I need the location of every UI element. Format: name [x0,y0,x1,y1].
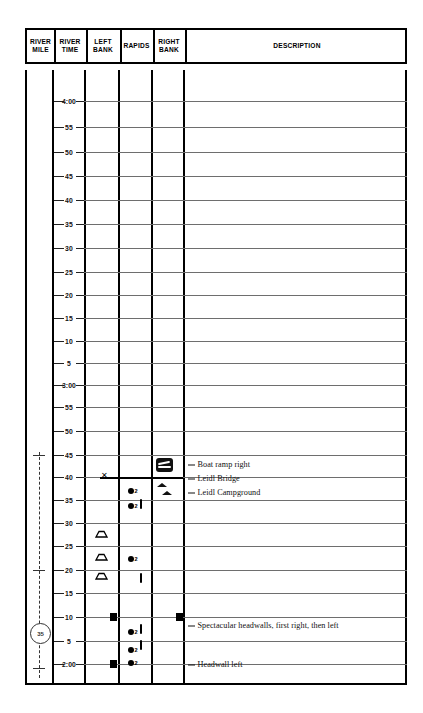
rapid-symbol: 2 [128,503,138,509]
gridline [84,101,407,102]
time-label: 50 [56,428,82,435]
rapid-class-label: 2 [135,489,138,495]
callout-leader-line [188,664,195,665]
right-bank-block [176,613,183,621]
header-river-mile: RIVERMILE [27,30,54,62]
time-label: 55 [56,124,82,131]
boat-ramp-icon [156,458,173,472]
gridline [84,641,407,642]
description-entry: Boat ramp right [188,460,250,469]
time-label: 15 [56,315,82,322]
time-label: 50 [56,149,82,156]
gridline [84,617,407,618]
description-text: Headwall left [198,660,243,669]
left-bank-block [110,613,117,621]
time-label: 3:00 [56,382,82,389]
header-river-time: RIVERTIME [54,30,86,62]
river-mile-dashed-line [39,452,40,678]
time-label: 5 [56,638,82,645]
gridline [84,431,407,432]
gridline [84,272,407,273]
gridline [84,200,407,201]
gridline [84,176,407,177]
rapid-dot [128,660,134,666]
time-label: 2:00 [56,661,82,668]
time-label: 30 [56,245,82,252]
gridline [84,318,407,319]
gridline [84,455,407,456]
description-text: Spectacular headwalls, first right, then… [198,621,339,630]
river-guide-chart: RIVERMILE RIVERTIME LEFTBANK RAPIDS RIGH… [0,0,423,713]
gridline [84,500,407,501]
gridline [84,127,407,128]
gridline [84,341,407,342]
rapid-symbol: 2 [128,556,138,562]
time-label: 35 [56,497,82,504]
time-label: 10 [56,614,82,621]
rock-glyph [157,483,167,487]
header-left-bank: LEFTBANK [86,30,120,62]
left-bank-block [110,660,117,668]
gridline [84,248,407,249]
rapid-dot [128,503,134,509]
rapid-dot [128,629,134,635]
time-label: 15 [56,590,82,597]
bridge-line [100,477,183,479]
time-label: 10 [56,338,82,345]
gridline [84,523,407,524]
bridge-marker-x: ✕ [101,472,108,480]
callout-leader-line [188,464,195,465]
description-text: Boat ramp right [198,460,251,469]
time-label: 20 [56,292,82,299]
gridline [84,363,407,364]
time-label: 55 [56,404,82,411]
campsite-icon [95,547,108,555]
river-mile-tick [33,570,45,571]
gridline [84,546,407,547]
time-label: 45 [56,173,82,180]
description-entry: Leidl Campground [188,488,260,497]
time-label: 40 [56,474,82,481]
gridline [84,295,407,296]
header-rapids: RAPIDS [120,30,153,62]
time-label: 25 [56,269,82,276]
gridline [84,593,407,594]
rapid-class-label: 2 [135,557,138,563]
gridline [84,407,407,408]
rapid-dot [128,556,134,562]
rapid-symbol: 2 [128,660,138,666]
header-right-bank: RIGHTBANK [153,30,185,62]
description-entry: Spectacular headwalls, first right, then… [188,621,339,630]
callout-leader-line [188,492,195,493]
description-text: Leidl Bridge [198,474,240,483]
time-label: 5 [56,360,82,367]
time-label: 30 [56,520,82,527]
rock-glyph [162,491,172,495]
rapid-class-label: 2 [135,504,138,510]
time-label: 4:00 [56,98,82,105]
river-mile-tick [33,455,45,456]
callout-leader-line [188,478,195,479]
rapid-symbol: 2 [128,629,138,635]
campsite-icon [95,566,108,574]
table-header: RIVERMILE RIVERTIME LEFTBANK RAPIDS RIGH… [25,28,407,64]
gridline [84,385,407,386]
callout-leader-line [188,625,195,626]
time-label: 20 [56,567,82,574]
time-label: 45 [56,452,82,459]
time-label: 35 [56,221,82,228]
header-description: DESCRIPTION [185,30,409,62]
rapid-dot [128,488,134,494]
time-label: 40 [56,197,82,204]
rapid-dot [128,647,134,653]
description-entry: Headwall left [188,660,242,669]
campsite-icon [95,524,108,532]
rapid-class-label: 2 [135,630,138,636]
gridline [84,152,407,153]
rapid-symbol: 2 [128,647,138,653]
river-mile-tick [33,668,45,669]
river-mile-marker: 35 [30,623,51,644]
description-text: Leidl Campground [198,488,261,497]
rapid-class-label: 2 [135,648,138,654]
gridline [84,570,407,571]
